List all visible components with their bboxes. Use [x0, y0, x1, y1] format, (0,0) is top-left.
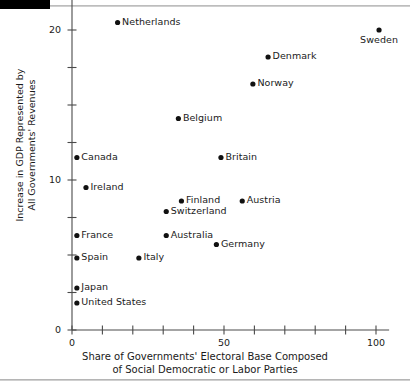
data-point[interactable]: [265, 54, 270, 59]
data-point-label: Belgium: [183, 113, 222, 123]
y-axis-title: Increase in GDP Represented by All Gover…: [14, 40, 37, 250]
data-point[interactable]: [179, 198, 184, 203]
data-point-label: Spain: [81, 252, 108, 262]
data-point-label: Denmark: [273, 51, 317, 61]
data-point[interactable]: [176, 116, 181, 121]
y-axis-tick-label: 20: [0, 24, 61, 35]
data-point-label: Switzerland: [171, 206, 227, 216]
y-axis-tick-label: 0: [0, 324, 61, 335]
data-point[interactable]: [376, 27, 381, 32]
data-point[interactable]: [74, 255, 79, 260]
y-axis-title-line1: Increase in GDP Represented by: [14, 40, 26, 250]
data-point-label: France: [81, 230, 113, 240]
figure-container: 01020050100NetherlandsSwedenDenmarkNorwa…: [0, 0, 410, 387]
data-point[interactable]: [115, 20, 120, 25]
data-point[interactable]: [136, 255, 141, 260]
x-axis-tick-label: 0: [42, 337, 102, 348]
y-axis-title-line2: All Governments' Revenues: [26, 40, 38, 250]
data-point-label: Canada: [81, 152, 117, 162]
x-axis-title-line1: Share of Governments' Electoral Base Com…: [0, 350, 410, 363]
data-point-label: Italy: [143, 252, 164, 262]
data-point[interactable]: [74, 300, 79, 305]
data-point[interactable]: [250, 81, 255, 86]
x-axis-title-line2: of Social Democratic or Labor Parties: [0, 363, 410, 376]
x-axis-tick-label: 50: [194, 337, 254, 348]
data-point-label: Britain: [225, 152, 257, 162]
data-point[interactable]: [214, 242, 219, 247]
data-point-label: Norway: [257, 78, 293, 88]
data-point-label: Netherlands: [122, 17, 180, 27]
data-point[interactable]: [83, 185, 88, 190]
data-point-label: Germany: [221, 239, 265, 249]
data-point-label: United States: [81, 297, 146, 307]
data-point-label: Australia: [171, 230, 213, 240]
data-point[interactable]: [74, 155, 79, 160]
data-point[interactable]: [74, 285, 79, 290]
data-point[interactable]: [240, 198, 245, 203]
data-point-label: Ireland: [90, 182, 123, 192]
data-point[interactable]: [164, 209, 169, 214]
data-point-label: Sweden: [353, 35, 405, 45]
data-point[interactable]: [218, 155, 223, 160]
data-point[interactable]: [164, 233, 169, 238]
x-axis-tick-label: 100: [346, 337, 406, 348]
data-point-label: Austria: [247, 195, 281, 205]
x-axis-title: Share of Governments' Electoral Base Com…: [0, 350, 410, 376]
data-point-label: Finland: [186, 195, 220, 205]
data-point[interactable]: [74, 233, 79, 238]
data-point-label: Japan: [81, 282, 108, 292]
